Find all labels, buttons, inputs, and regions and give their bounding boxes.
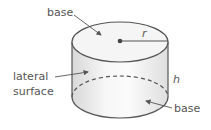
height-label: h xyxy=(173,73,180,86)
lateral-surface-label-line2: surface xyxy=(13,85,54,98)
bottom-base-label: base xyxy=(174,102,200,115)
lateral-surface-label-line1: lateral xyxy=(13,70,48,83)
radius-label: r xyxy=(142,27,147,40)
center-point xyxy=(118,39,123,44)
top-base-label: base xyxy=(47,6,73,19)
